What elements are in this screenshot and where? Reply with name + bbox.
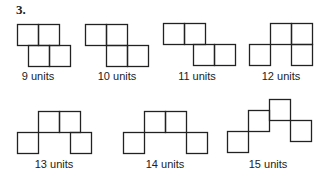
square-figure bbox=[124, 112, 208, 154]
figure-label: 13 units bbox=[35, 158, 74, 170]
unit-square bbox=[29, 46, 50, 67]
square-figure bbox=[18, 25, 71, 67]
unit-square bbox=[249, 111, 270, 132]
unit-square bbox=[292, 24, 313, 45]
square-figure bbox=[250, 24, 313, 66]
unit-square bbox=[187, 133, 208, 154]
unit-square bbox=[18, 133, 39, 154]
figure-label: 9 units bbox=[22, 70, 54, 82]
unit-square bbox=[164, 24, 185, 45]
unit-square bbox=[71, 133, 92, 154]
figures-canvas bbox=[0, 0, 327, 177]
unit-square bbox=[124, 133, 145, 154]
square-figure bbox=[228, 100, 312, 153]
unit-square bbox=[271, 24, 292, 45]
figure-label: 12 units bbox=[262, 70, 301, 82]
figure-label: 14 units bbox=[146, 158, 185, 170]
unit-square bbox=[145, 112, 166, 133]
unit-square bbox=[270, 100, 291, 121]
unit-square bbox=[291, 121, 312, 142]
square-figure bbox=[164, 24, 236, 66]
unit-square bbox=[18, 25, 39, 46]
figure-label: 10 units bbox=[98, 70, 137, 82]
unit-square bbox=[39, 25, 60, 46]
unit-square bbox=[215, 45, 236, 66]
square-figure bbox=[18, 112, 92, 154]
unit-square bbox=[50, 46, 71, 67]
unit-square bbox=[86, 25, 107, 46]
unit-square bbox=[128, 46, 149, 67]
unit-square bbox=[228, 132, 249, 153]
unit-square bbox=[107, 46, 128, 67]
unit-square bbox=[60, 112, 81, 133]
unit-square bbox=[194, 45, 215, 66]
unit-square bbox=[292, 45, 313, 66]
unit-square bbox=[185, 24, 206, 45]
unit-square bbox=[166, 112, 187, 133]
unit-square bbox=[39, 112, 60, 133]
figure-label: 15 units bbox=[249, 158, 288, 170]
square-figure bbox=[86, 25, 149, 67]
unit-square bbox=[250, 45, 271, 66]
unit-square bbox=[107, 25, 128, 46]
figure-label: 11 units bbox=[178, 70, 216, 82]
